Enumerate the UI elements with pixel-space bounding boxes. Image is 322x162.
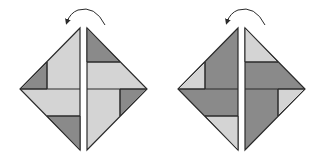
dark-triangle-lower [47,116,80,150]
right-diagram [178,9,305,150]
light-triangle-right [278,89,305,116]
left-half [178,28,238,150]
left-half [20,28,80,150]
light-triangle-top [245,28,278,62]
right-half [245,28,305,150]
dark-triangle-right [120,89,147,116]
rotation-arrow-icon [67,9,105,25]
dark-triangle-upper [20,62,47,89]
right-half [87,28,147,150]
dark-triangle-top [87,28,120,62]
left-diagram [20,9,147,150]
fold-diagram-figure [0,0,322,162]
light-triangle-upper [178,62,205,89]
rotation-arrow-icon [227,9,265,25]
light-triangle-lower [205,116,238,150]
